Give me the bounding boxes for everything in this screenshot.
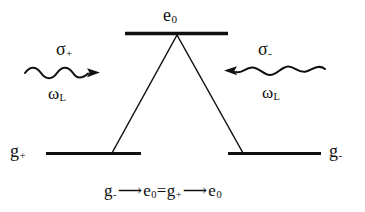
caption-arrow-1-icon: ⟶: [117, 181, 144, 200]
energy-level-diagram: e0 g+ g- σ+ ωL σ- ωL g-⟶e0=g+⟶e0: [0, 0, 365, 212]
caption-term-1: g-: [104, 181, 117, 200]
caption-term-2: e0: [143, 181, 156, 200]
ground-state-left-label: g+: [10, 142, 26, 160]
caption-term-3: g+: [167, 181, 182, 200]
left-frequency-label: ωL: [48, 85, 66, 102]
caption-term-4: e0: [208, 181, 221, 200]
right-laser-wavy-arrow-icon: [224, 66, 325, 75]
caption-equation: g-⟶e0=g+⟶e0: [104, 182, 222, 199]
left-laser-wavy-arrow-icon: [25, 68, 100, 79]
excited-state-label: e0: [163, 6, 177, 24]
transition-line-left: [112, 35, 177, 153]
right-polarization-label: σ-: [258, 40, 271, 58]
ground-state-right-label: g-: [329, 142, 342, 160]
left-polarization-label: σ+: [56, 40, 72, 58]
transition-line-right: [177, 35, 243, 153]
right-frequency-label: ωL: [262, 84, 280, 101]
caption-equals: =: [157, 181, 167, 200]
caption-arrow-2-icon: ⟶: [182, 181, 209, 200]
